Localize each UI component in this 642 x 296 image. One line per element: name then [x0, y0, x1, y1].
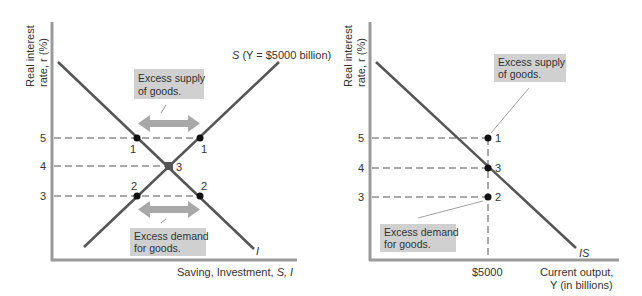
left-panel: Real interest rate, r (%) 5 4 3 S (Y = $… [24, 22, 331, 278]
left-point-3-label: 3 [176, 161, 182, 173]
right-excess-supply-text-2: of goods. [498, 68, 541, 80]
right-point-1 [485, 135, 492, 142]
left-xlabel: Saving, Investment, S, I [177, 266, 293, 278]
left-excess-supply-text-1: Excess supply [138, 72, 206, 84]
right-panel: Real interest rate, r (%) 5 4 3 IS Exces… [342, 22, 619, 291]
right-tick-3: 3 [358, 191, 364, 203]
left-point-3 [165, 162, 173, 170]
left-ylabel-line2: rate, r (%) [37, 38, 49, 87]
is-curve-label: IS [579, 247, 590, 259]
right-xlabel-line1: Current output, [540, 266, 613, 278]
right-tick-4: 4 [358, 162, 364, 174]
right-xlabel-line2: Y (in billions) [550, 279, 613, 291]
left-excess-supply-text-2: of goods. [138, 85, 181, 97]
left-ylabel-line1: Real interest [24, 25, 36, 87]
left-excess-demand-arrow [138, 201, 200, 218]
left-point-1-left [134, 135, 141, 142]
left-point-2-left-label: 2 [131, 180, 137, 192]
figure: Real interest rate, r (%) 5 4 3 S (Y = $… [0, 0, 642, 296]
is-curve [376, 62, 576, 248]
right-excess-supply-leader [491, 88, 529, 133]
right-point-3-label: 3 [495, 162, 501, 174]
investment-curve-label: I [256, 245, 259, 257]
left-excess-demand-leader [161, 219, 166, 223]
right-point-1-label: 1 [495, 132, 501, 144]
left-excess-demand-text-1: Excess demand [134, 230, 209, 242]
left-point-1-right [197, 135, 204, 142]
right-ylabel-line1: Real interest [342, 25, 354, 87]
right-excess-demand-leader [418, 201, 483, 218]
right-point-2 [485, 194, 492, 201]
left-tick-3: 3 [40, 190, 46, 202]
right-xtick-5000: $5000 [472, 266, 503, 278]
right-excess-demand-text-2: for goods. [384, 238, 431, 250]
right-excess-demand-text-1: Excess demand [384, 226, 459, 238]
right-point-2-label: 2 [495, 191, 501, 203]
left-tick-4: 4 [40, 160, 46, 172]
left-tick-5: 5 [40, 132, 46, 144]
right-point-3 [485, 165, 492, 172]
left-point-1-left-label: 1 [130, 143, 136, 155]
left-point-2-left [134, 193, 141, 200]
left-point-1-right-label: 1 [201, 143, 207, 155]
left-point-2-right-label: 2 [201, 180, 207, 192]
right-ylabel-line2: rate, r (%) [355, 38, 367, 87]
left-excess-demand-text-2: for goods. [134, 242, 181, 254]
left-point-2-right [197, 193, 204, 200]
left-excess-supply-leader [161, 105, 166, 113]
right-excess-supply-text-1: Excess supply [498, 56, 566, 68]
right-tick-5: 5 [358, 132, 364, 144]
left-excess-supply-arrow [138, 115, 200, 132]
saving-curve-label: S (Y = $5000 billion) [232, 49, 331, 61]
